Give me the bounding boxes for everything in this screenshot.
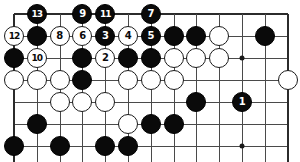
stone-white xyxy=(50,70,70,90)
stone-white xyxy=(118,114,138,134)
move-stone-6: 6 xyxy=(72,26,92,46)
move-number-label: 8 xyxy=(56,31,62,41)
move-number-label: 12 xyxy=(9,32,20,41)
stone-black xyxy=(4,48,24,68)
grid-line-vertical xyxy=(242,14,243,162)
stone-black xyxy=(141,48,161,68)
star-point xyxy=(240,144,245,149)
stone-black xyxy=(164,26,184,46)
move-stone-13: 13 xyxy=(27,4,47,24)
stone-black xyxy=(4,136,24,156)
stone-white xyxy=(27,70,47,90)
stone-black xyxy=(27,114,47,134)
move-stone-2: 2 xyxy=(95,48,115,68)
move-number-label: 9 xyxy=(79,9,85,19)
stone-white xyxy=(72,92,92,112)
stone-black xyxy=(72,70,92,90)
stone-black xyxy=(95,136,115,156)
stone-black xyxy=(186,92,206,112)
stone-black xyxy=(118,48,138,68)
move-stone-11: 11 xyxy=(95,4,115,24)
stone-white xyxy=(141,70,161,90)
stone-white xyxy=(278,70,298,90)
move-number-label: 13 xyxy=(32,10,43,19)
move-stone-4: 4 xyxy=(118,26,138,46)
move-number-label: 10 xyxy=(32,54,43,63)
move-stone-5: 5 xyxy=(141,26,161,46)
stone-black xyxy=(118,136,138,156)
stone-white xyxy=(4,70,24,90)
stone-white xyxy=(50,92,70,112)
move-stone-10: 10 xyxy=(27,48,47,68)
stone-black xyxy=(186,26,206,46)
stone-white xyxy=(164,48,184,68)
move-stone-9: 9 xyxy=(72,4,92,24)
stone-white xyxy=(186,48,206,68)
stone-white xyxy=(164,70,184,90)
move-stone-3: 3 xyxy=(95,26,115,46)
move-number-label: 2 xyxy=(102,53,108,63)
go-board: 13911712863451021 xyxy=(0,0,300,162)
stone-white xyxy=(95,92,115,112)
move-stone-7: 7 xyxy=(141,4,161,24)
move-stone-1: 1 xyxy=(232,92,252,112)
stone-black xyxy=(141,114,161,134)
move-number-label: 11 xyxy=(100,10,111,19)
move-number-label: 5 xyxy=(148,31,154,41)
stone-black xyxy=(72,48,92,68)
stone-white xyxy=(209,48,229,68)
move-number-label: 1 xyxy=(239,97,245,107)
stone-black xyxy=(255,26,275,46)
move-number-label: 6 xyxy=(79,31,85,41)
move-number-label: 7 xyxy=(148,9,154,19)
star-point xyxy=(240,56,245,61)
move-stone-12: 12 xyxy=(4,26,24,46)
stone-white xyxy=(209,26,229,46)
move-number-label: 3 xyxy=(102,31,108,41)
stone-white xyxy=(118,70,138,90)
move-number-label: 4 xyxy=(125,31,131,41)
stone-black xyxy=(27,26,47,46)
move-stone-8: 8 xyxy=(50,26,70,46)
stone-black xyxy=(50,136,70,156)
stone-black xyxy=(164,114,184,134)
